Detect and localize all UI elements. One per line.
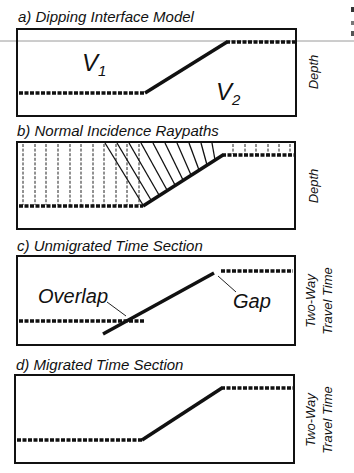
panel-b-normal-incidence-raypaths: b) Normal Incidence Raypaths <box>17 122 321 229</box>
vertical-raypaths-left <box>23 144 139 205</box>
panel-a-axis-label: Depth <box>306 55 321 90</box>
panel-d-axis-label-line2: Travel Time <box>320 386 335 454</box>
panel-a-dipping-segment <box>145 42 227 93</box>
panel-c-unmigrated-time-section: c) Unmigrated Time Section Overlap Gap T… <box>17 237 335 345</box>
panel-b-dipping-segment <box>143 155 223 206</box>
panel-d-title: d) Migrated Time Section <box>16 356 183 373</box>
panel-c-axis-label-line1: Two-Way <box>303 273 318 328</box>
panel-d-migrated-dip-segment <box>142 388 222 440</box>
seismic-migration-figure: a) Dipping Interface Model V1 V2 Depth b… <box>0 0 354 473</box>
gap-label: Gap <box>233 290 271 312</box>
panel-a-dipping-interface-model: a) Dipping Interface Model V1 V2 Depth <box>17 8 321 116</box>
panel-b-title: b) Normal Incidence Raypaths <box>17 122 219 139</box>
panel-a-title: a) Dipping Interface Model <box>18 8 195 25</box>
panel-c-title: c) Unmigrated Time Section <box>17 237 203 254</box>
panel-d-migrated-time-section: d) Migrated Time Section Two-Way Travel … <box>15 356 335 463</box>
panel-c-unmigrated-dip-segment <box>103 273 214 334</box>
velocity-label-v1: V1 <box>82 49 106 79</box>
overlap-label: Overlap <box>38 285 108 307</box>
velocity-label-v2: V2 <box>216 78 241 108</box>
gap-leader-line <box>218 276 236 292</box>
panel-c-axis-label-line2: Travel Time <box>320 267 335 335</box>
panel-b-axis-label: Depth <box>306 169 321 204</box>
panel-d-axis-label-line1: Two-Way <box>303 392 318 447</box>
vertical-raypaths-right <box>233 144 290 154</box>
overlap-leader-line <box>107 302 126 316</box>
